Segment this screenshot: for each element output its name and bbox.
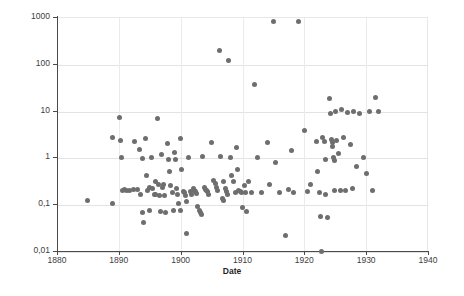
data-point: [159, 152, 164, 157]
data-point: [318, 214, 323, 219]
data-point: [166, 157, 171, 162]
data-point: [265, 140, 270, 145]
data-point: [155, 116, 160, 121]
x-tick-label: 1890: [89, 255, 149, 265]
y-tick-mark: [53, 17, 57, 18]
data-point: [158, 209, 163, 214]
data-point: [327, 96, 332, 101]
data-point: [305, 189, 310, 194]
data-point: [149, 155, 154, 160]
data-point: [325, 215, 330, 220]
plot-area: [57, 17, 428, 251]
data-point: [170, 190, 175, 195]
data-point: [302, 128, 307, 133]
y-tick-mark: [53, 204, 57, 205]
data-point: [140, 156, 145, 161]
data-point: [370, 188, 375, 193]
x-tick-label: 1930: [336, 255, 396, 265]
data-point: [165, 141, 170, 146]
data-point: [364, 171, 369, 176]
data-point: [273, 160, 278, 165]
data-point: [271, 19, 276, 24]
gridline-vertical: [243, 18, 244, 252]
data-point: [373, 95, 378, 100]
data-point: [217, 48, 222, 53]
data-point: [225, 192, 230, 197]
data-point: [332, 158, 337, 163]
data-point: [323, 157, 328, 162]
y-tick-label: 0,1: [0, 199, 50, 208]
data-point: [343, 188, 348, 193]
data-point: [334, 138, 339, 143]
data-point: [206, 192, 211, 197]
data-point: [367, 109, 372, 114]
data-point: [221, 198, 226, 203]
data-point: [351, 109, 356, 114]
x-tick-label: 1920: [274, 255, 334, 265]
data-point: [135, 187, 140, 192]
y-tick-label: 100: [0, 59, 50, 68]
data-point: [338, 188, 343, 193]
data-point: [178, 208, 183, 213]
data-point: [183, 193, 188, 198]
gridline-vertical: [366, 18, 367, 252]
y-tick-label: 10: [0, 106, 50, 115]
y-tick-label: 1: [0, 152, 50, 161]
data-point: [144, 173, 149, 178]
gridline-vertical: [119, 18, 120, 252]
data-point: [350, 186, 355, 191]
data-point: [259, 190, 264, 195]
data-point: [228, 155, 233, 160]
data-point: [267, 182, 272, 187]
x-tick-label: 1880: [27, 255, 87, 265]
data-point: [209, 140, 214, 145]
y-tick-mark: [53, 157, 57, 158]
scatter-chart: 10001001010,10,01 1880189019001910192019…: [0, 0, 464, 296]
y-tick-label: 1000: [0, 12, 50, 21]
data-point: [319, 249, 324, 254]
data-point: [348, 142, 353, 147]
y-axis-line: [57, 16, 58, 252]
y-tick-mark: [53, 64, 57, 65]
gridline-vertical: [304, 18, 305, 252]
data-point: [339, 107, 344, 112]
data-point: [110, 201, 115, 206]
data-point: [184, 199, 189, 204]
data-point: [336, 151, 341, 156]
x-tick-label: 1940: [398, 255, 458, 265]
y-tick-label: 0,01: [0, 246, 50, 255]
data-point: [162, 193, 167, 198]
data-point: [361, 155, 366, 160]
data-point: [147, 208, 152, 213]
data-point: [137, 147, 142, 152]
data-point: [322, 139, 327, 144]
gridline-vertical: [181, 18, 182, 252]
data-point: [332, 188, 337, 193]
data-point: [172, 150, 177, 155]
data-point: [171, 208, 176, 213]
data-point: [119, 155, 124, 160]
data-point: [242, 183, 247, 188]
y-tick-mark: [53, 111, 57, 112]
data-point: [333, 109, 338, 114]
x-axis-title: Date: [0, 266, 464, 276]
data-point: [157, 193, 162, 198]
data-point: [376, 109, 381, 114]
data-point: [117, 115, 122, 120]
x-tick-label: 1900: [151, 255, 211, 265]
x-tick-label: 1910: [213, 255, 273, 265]
data-point: [167, 169, 172, 174]
data-point: [215, 188, 220, 193]
data-point: [296, 19, 301, 24]
